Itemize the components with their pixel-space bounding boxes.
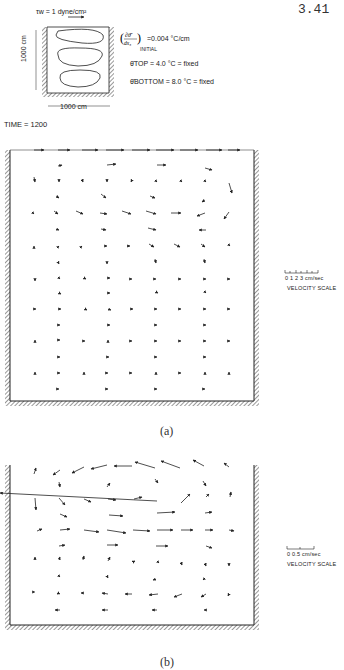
panel-a-domain	[5, 150, 259, 406]
schematic-box: ( ∂θ̄ dx₃ )	[36, 17, 141, 106]
velocity-scale-b	[287, 546, 314, 549]
figure-graphics: ( ∂θ̄ dx₃ )	[0, 0, 344, 670]
panel-b-vectors	[0, 460, 234, 610]
svg-text:∂θ̄: ∂θ̄	[125, 32, 133, 38]
svg-text:dx₃: dx₃	[124, 40, 131, 46]
velocity-scale-a	[285, 270, 318, 273]
svg-text:): )	[137, 31, 141, 45]
panel-a-vectors	[33, 150, 240, 389]
panel-b-domain	[5, 465, 259, 630]
